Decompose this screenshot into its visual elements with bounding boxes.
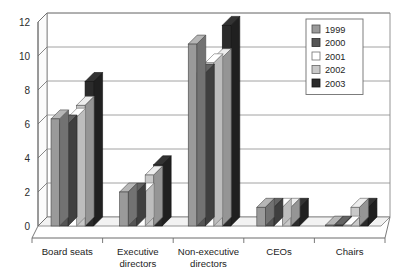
legend-item[interactable]: 2000 bbox=[312, 38, 345, 48]
y-axis-tick-label: 0 bbox=[24, 221, 30, 232]
legend-item-label: 2001 bbox=[325, 52, 345, 62]
y-axis-tick-label: 12 bbox=[19, 17, 31, 28]
legend-swatch bbox=[312, 39, 320, 47]
grouped-bar-chart: 024681012Board seatsExecutivedirectorsNo… bbox=[0, 0, 394, 272]
bar bbox=[51, 110, 69, 226]
legend-item[interactable]: 2002 bbox=[312, 65, 345, 75]
legend-item-label: 2000 bbox=[325, 38, 345, 48]
y-axis-tick-label: 6 bbox=[24, 119, 30, 130]
bar-side-face bbox=[154, 166, 163, 226]
x-axis-category-label: Non-executive bbox=[178, 246, 239, 257]
legend-item[interactable]: 2003 bbox=[312, 79, 345, 89]
bar-front-face bbox=[120, 192, 129, 226]
bar-side-face bbox=[60, 110, 69, 226]
legend-swatch bbox=[312, 25, 320, 33]
legend-item-label: 1999 bbox=[325, 25, 345, 35]
bar-side-face bbox=[231, 16, 240, 226]
bar bbox=[188, 35, 206, 226]
legend: 19992000200120022003 bbox=[306, 19, 363, 95]
legend-item-label: 2003 bbox=[325, 79, 345, 89]
bar-side-face bbox=[197, 35, 206, 226]
legend-swatch bbox=[312, 52, 320, 60]
bar-side-face bbox=[77, 108, 86, 226]
bar-front-face bbox=[51, 119, 60, 226]
bar-side-face bbox=[214, 54, 223, 226]
y-axis-tick-label: 8 bbox=[24, 85, 30, 96]
legend-swatch bbox=[312, 79, 320, 87]
bar-front-face bbox=[342, 225, 351, 226]
bar-front-face bbox=[188, 44, 197, 226]
bar bbox=[120, 183, 138, 226]
x-axis-category-label: directors bbox=[190, 258, 227, 269]
bar-group bbox=[257, 198, 309, 226]
bar-side-face bbox=[162, 156, 171, 226]
bar-side-face bbox=[85, 96, 94, 226]
bar-side-face bbox=[68, 115, 77, 226]
bar-side-face bbox=[94, 73, 103, 227]
y-axis-tick-label: 4 bbox=[24, 153, 30, 164]
bar-front-face bbox=[257, 207, 266, 226]
x-axis-category-label: Board seats bbox=[42, 246, 93, 257]
legend-swatch bbox=[312, 66, 320, 74]
bar-side-face bbox=[222, 49, 231, 226]
legend-item[interactable]: 1999 bbox=[312, 25, 345, 35]
bar-front-face bbox=[334, 225, 343, 226]
x-axis-category-label: CEOs bbox=[266, 246, 292, 257]
axis-corner-joint bbox=[32, 226, 38, 238]
bar-front-face bbox=[325, 225, 334, 226]
x-axis-category-label: Executive bbox=[117, 246, 159, 257]
y-axis-tick-label: 2 bbox=[24, 187, 30, 198]
bar-side-face bbox=[205, 64, 214, 226]
x-axis-category-label: Chairs bbox=[336, 246, 364, 257]
legend-item[interactable]: 2001 bbox=[312, 52, 345, 62]
x-axis-category-label: directors bbox=[120, 258, 157, 269]
legend-item-label: 2002 bbox=[325, 65, 345, 75]
y-axis-tick-label: 10 bbox=[19, 51, 31, 62]
chart-container: 024681012Board seatsExecutivedirectorsNo… bbox=[0, 0, 394, 272]
